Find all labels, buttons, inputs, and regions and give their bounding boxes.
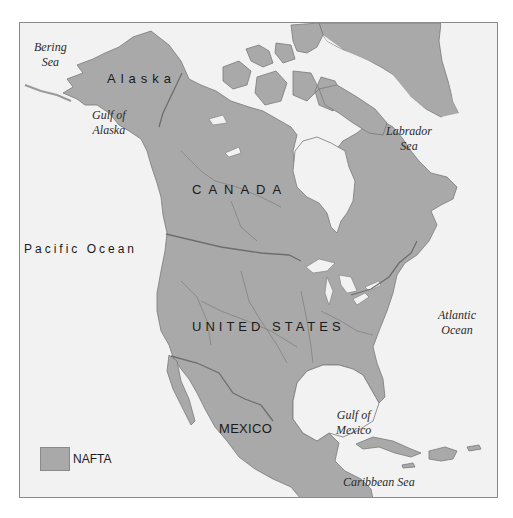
label-gulf-of-alaska-line2: Alaska xyxy=(92,124,126,136)
label-bering-sea: Bering Sea xyxy=(34,41,67,68)
label-atlantic-ocean-line2: Ocean xyxy=(438,324,476,336)
caribbean-islands xyxy=(356,437,481,468)
label-bering-sea-line2: Sea xyxy=(34,56,67,68)
label-labrador-sea-line1: Labrador xyxy=(386,125,432,137)
label-atlantic-ocean-line1: Atlantic xyxy=(438,309,476,321)
label-bering-sea-line1: Bering xyxy=(34,41,67,53)
label-mexico: MEXICO xyxy=(219,422,272,435)
label-gulf-of-mexico-line1: Gulf of xyxy=(336,409,371,421)
label-gulf-of-alaska: Gulf of Alaska xyxy=(92,109,126,136)
label-caribbean-sea: Caribbean Sea xyxy=(343,476,415,488)
label-gulf-of-mexico: Gulf of Mexico xyxy=(336,409,371,436)
label-united-states: UNITED STATES xyxy=(192,320,345,333)
label-alaska: Alaska xyxy=(107,72,176,85)
label-gulf-of-alaska-line1: Gulf of xyxy=(92,109,126,121)
label-labrador-sea-line2: Sea xyxy=(386,140,432,152)
label-labrador-sea: Labrador Sea xyxy=(386,125,432,152)
label-canada: CANADA xyxy=(192,183,288,196)
nafta-legend-label: NAFTA xyxy=(73,452,111,466)
label-pacific-ocean: Pacific Ocean xyxy=(24,243,137,255)
map-legend: NAFTA xyxy=(40,447,111,471)
label-gulf-of-mexico-line2: Mexico xyxy=(336,424,371,436)
nafta-legend-swatch xyxy=(40,447,70,471)
baffin-island xyxy=(319,85,387,135)
map-frame: Arctic Ocean Bering Sea Gulf of Alaska L… xyxy=(19,22,498,498)
label-atlantic-ocean: Atlantic Ocean xyxy=(438,309,476,336)
